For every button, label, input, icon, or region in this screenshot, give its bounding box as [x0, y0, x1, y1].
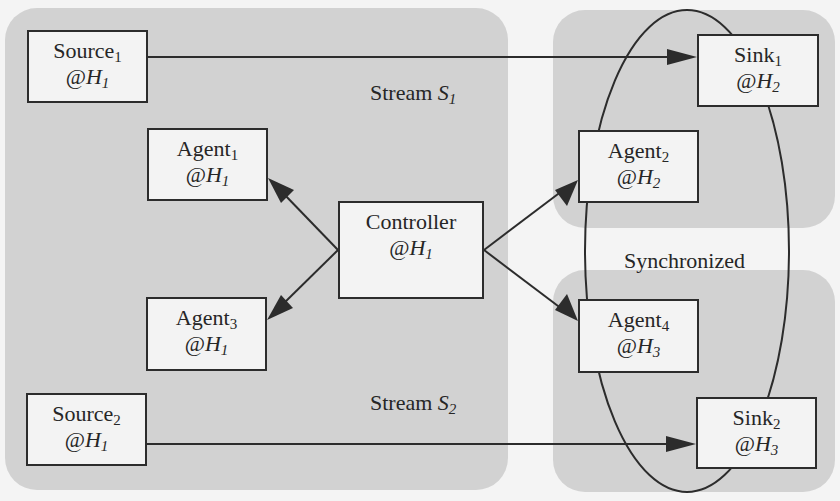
stream-s1-label: Stream S1	[370, 80, 456, 106]
node-title: Controller	[366, 209, 456, 234]
node-controller: Controller @H1	[338, 201, 484, 299]
node-title: Sink2	[733, 405, 781, 430]
node-host: @H1	[148, 331, 265, 357]
controller-agent3-edge	[281, 250, 338, 306]
node-agent1: Agent1 @H1	[147, 128, 268, 201]
node-host: @H1	[28, 427, 145, 453]
node-title: Agent2	[608, 138, 669, 163]
controller-agent2-edge	[484, 191, 562, 250]
controller-agent1-edge	[282, 192, 338, 250]
arrowhead-icon	[555, 294, 578, 321]
arrowhead-icon	[666, 436, 696, 452]
node-sink1: Sink1 @H2	[697, 34, 819, 107]
node-title: Agent4	[608, 307, 669, 332]
node-title: Source2	[52, 401, 121, 426]
node-agent4: Agent4 @H3	[578, 299, 699, 373]
diagram-canvas: Source1 @H1 Agent1 @H1 Controller @H1 Ag…	[0, 0, 840, 501]
node-title: Source1	[53, 38, 122, 63]
node-title: Agent1	[177, 136, 238, 161]
node-host: @H2	[580, 164, 697, 190]
arrowhead-icon	[667, 49, 697, 65]
node-source1: Source1 @H1	[27, 30, 148, 103]
node-agent3: Agent3 @H1	[146, 297, 267, 371]
node-host: @H2	[699, 68, 817, 94]
node-source2: Source2 @H1	[26, 393, 147, 466]
arrowhead-icon	[555, 180, 578, 206]
controller-agent4-edge	[484, 250, 562, 309]
node-title: Sink1	[734, 42, 782, 67]
synchronized-label: Synchronized	[624, 248, 745, 274]
node-sink2: Sink2 @H3	[696, 397, 817, 469]
node-agent2: Agent2 @H2	[578, 130, 699, 203]
node-host: @H3	[698, 431, 815, 457]
node-host: @H1	[149, 162, 266, 188]
node-host: @H1	[29, 64, 146, 90]
node-host: @H1	[340, 235, 482, 261]
node-host: @H3	[580, 333, 697, 359]
stream-s2-label: Stream S2	[370, 390, 456, 416]
node-title: Agent3	[176, 305, 237, 330]
